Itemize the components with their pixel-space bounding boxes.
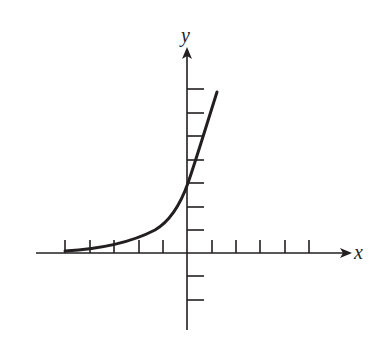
- exponential-curve: [65, 92, 217, 251]
- y-axis-label: y: [179, 24, 190, 47]
- x-axis-label: x: [353, 241, 363, 263]
- y-axis-ticks: [187, 89, 204, 300]
- exponential-graph: y x: [0, 0, 385, 344]
